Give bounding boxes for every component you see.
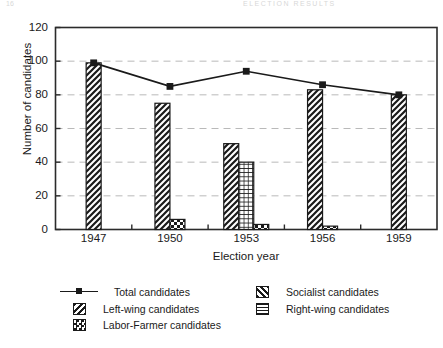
x-axis-title: Election year: [55, 250, 437, 262]
line-data-point: [243, 68, 250, 75]
line-data-point: [167, 83, 174, 90]
legend-label: Labor-Farmer candidates: [103, 319, 221, 331]
bar: [391, 95, 406, 230]
bar: [239, 162, 254, 229]
legend-label: Total candidates: [114, 286, 190, 298]
legend-entry-right-wing: Right-wing candidates: [256, 301, 389, 316]
y-tick-label: 20: [14, 190, 48, 201]
x-tick-label: 1956: [293, 232, 353, 244]
checkerboard-icon: [73, 319, 86, 331]
chart-figure: 16 ELECTION RESULTS: [0, 0, 443, 348]
bar: [308, 90, 323, 230]
legend-label: Socialist candidates: [286, 286, 379, 298]
bar: [86, 63, 101, 230]
line-series: [94, 63, 399, 95]
legend-entry-labor-farmer: Labor-Farmer candidates: [73, 317, 221, 332]
bar: [224, 144, 239, 230]
line-data-point: [319, 81, 326, 88]
x-tick-label: 1950: [140, 232, 200, 244]
legend-label: Left-wing candidates: [103, 303, 199, 315]
y-axis-title: Number of candidates: [21, 19, 33, 179]
bar: [323, 226, 338, 229]
grid-crosshatch-icon: [256, 303, 269, 315]
legend-entry-left-wing: Left-wing candidates: [73, 301, 199, 316]
line-data-point: [395, 91, 402, 98]
legend-label: Right-wing candidates: [286, 303, 389, 315]
line-marker-icon: [60, 286, 98, 298]
diagonal-down-hatch-icon: [73, 303, 86, 315]
x-tick-label: 1959: [369, 232, 429, 244]
chart-legend: Total candidates Left-wing candidates La…: [60, 284, 440, 342]
y-tick-label: 0: [14, 224, 48, 235]
bar: [155, 103, 170, 229]
line-data-point: [90, 59, 97, 66]
bar: [254, 224, 269, 229]
legend-entry-socialist: Socialist candidates: [256, 284, 379, 299]
bar: [170, 219, 185, 229]
legend-entry-total: Total candidates: [60, 284, 190, 299]
diagonal-up-hatch-icon: [256, 286, 269, 298]
x-tick-label: 1953: [216, 232, 276, 244]
x-tick-label: 1947: [64, 232, 124, 244]
